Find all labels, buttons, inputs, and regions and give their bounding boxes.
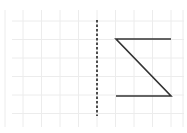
grid (5, 10, 184, 127)
z-shape (116, 39, 171, 96)
diagram-canvas (0, 0, 187, 133)
